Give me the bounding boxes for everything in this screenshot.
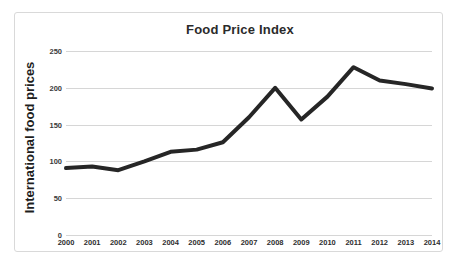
- y-tick-label-250: 250: [28, 47, 62, 56]
- chart-title: Food Price Index: [60, 22, 420, 37]
- y-tick-label-150: 150: [28, 120, 62, 129]
- y-axis-tick-labels: 050100150200250: [24, 51, 62, 235]
- y-tick-label-200: 200: [28, 83, 62, 92]
- y-tick-label-50: 50: [28, 194, 62, 203]
- series-line-international-food-prices: [66, 67, 432, 170]
- gridline-y-0: [66, 235, 432, 236]
- y-tick-label-100: 100: [28, 157, 62, 166]
- x-axis-tick-labels: 2000200120022003200420052006200720082009…: [66, 238, 432, 252]
- food-price-index-chart: Food Price Index International food pric…: [0, 0, 457, 272]
- line-series-group: [66, 51, 432, 235]
- x-tick-label-2014: 2014: [417, 238, 447, 247]
- plot-area: [66, 51, 432, 235]
